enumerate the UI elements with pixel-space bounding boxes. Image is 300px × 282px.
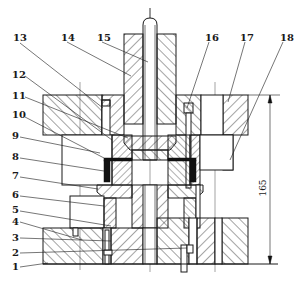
label-8: 8	[12, 151, 19, 162]
dimension-165: 165	[248, 95, 280, 264]
dimension-label: 165	[258, 179, 268, 196]
label-3: 3	[12, 232, 19, 243]
label-13: 13	[13, 32, 27, 43]
label-10: 10	[12, 109, 26, 120]
label-2: 2	[12, 247, 19, 258]
label-11: 11	[12, 90, 26, 101]
label-12: 12	[12, 69, 26, 80]
label-6: 6	[12, 189, 19, 200]
label-15: 15	[97, 32, 111, 43]
part-9-stripper	[124, 136, 176, 160]
label-7: 7	[12, 170, 19, 181]
label-18: 18	[280, 32, 294, 43]
label-9: 9	[12, 130, 19, 141]
label-1: 1	[12, 261, 19, 272]
label-17: 17	[240, 32, 254, 43]
die-assembly-drawing: 165 13 14 15 16 17 18 12 11 10 9 8 7 6	[0, 0, 300, 282]
label-4: 4	[12, 216, 19, 227]
label-16: 16	[205, 32, 219, 43]
label-14: 14	[61, 32, 75, 43]
label-5: 5	[12, 204, 19, 215]
